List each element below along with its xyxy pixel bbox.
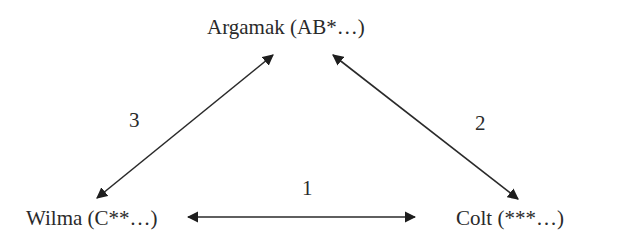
edge-label-3: 3 [129,110,140,131]
edge-label-1: 1 [302,178,313,199]
relationship-diagram: Argamak (AB*…) Wilma (C**…) Colt (***…) … [0,0,620,243]
node-argamak: Argamak (AB*…) [207,17,365,38]
node-colt: Colt (***…) [456,208,564,229]
edge-label-2: 2 [475,113,486,134]
edge-3-arrow [97,55,273,198]
node-wilma: Wilma (C**…) [26,208,158,229]
edge-2-arrow [333,55,518,199]
